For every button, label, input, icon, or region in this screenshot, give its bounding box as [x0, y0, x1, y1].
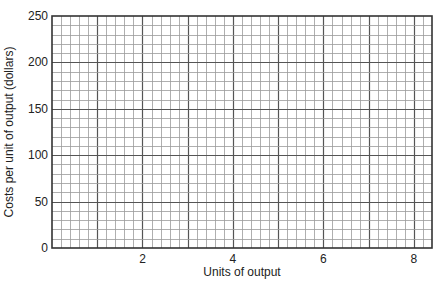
- y-tick-label: 200: [28, 55, 48, 69]
- x-tick-label: 2: [139, 252, 146, 266]
- y-axis-label: Costs per unit of output (dollars): [2, 47, 16, 218]
- x-axis-ticks: 2468: [139, 252, 417, 266]
- y-tick-label: 250: [28, 9, 48, 23]
- y-tick-label: 100: [28, 148, 48, 162]
- y-tick-label: 150: [28, 102, 48, 116]
- y-tick-label: 0: [41, 241, 48, 255]
- y-tick-label: 50: [35, 195, 49, 209]
- y-axis-ticks: 050100150200250: [28, 9, 48, 255]
- x-tick-label: 6: [320, 252, 327, 266]
- x-tick-label: 8: [411, 252, 418, 266]
- x-axis-label: Units of output: [203, 265, 281, 279]
- x-tick-label: 4: [230, 252, 237, 266]
- plot-frame: [52, 16, 432, 248]
- cost-chart: 050100150200250 2468 Units of output Cos…: [0, 0, 447, 296]
- grid: [52, 16, 432, 248]
